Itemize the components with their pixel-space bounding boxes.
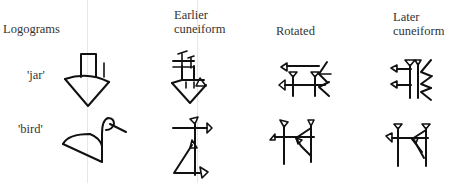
bird-later-cuneiform-icon [384,122,439,172]
header-earlier-line2: cuneiform [174,22,225,36]
header-earlier-line1: Earlier [174,8,225,22]
jar-later-cuneiform-icon [387,58,442,103]
header-later-cuneiform: Later cuneiform [393,10,444,38]
bird-logogram-icon [60,112,130,167]
jar-earlier-cuneiform-icon [168,48,218,108]
jar-logogram-icon [60,48,120,108]
header-rotated: Rotated [276,24,315,38]
row-label-bird: 'bird' [18,122,43,137]
jar-rotated-cuneiform-icon [277,60,337,100]
header-logograms: Logograms [3,22,60,36]
header-earlier-cuneiform: Earlier cuneiform [174,8,225,36]
row-label-jar: 'jar' [27,68,45,83]
header-later-line2: cuneiform [393,24,444,38]
bird-rotated-cuneiform-icon [268,118,323,168]
bird-earlier-cuneiform-icon [170,115,220,180]
header-later-line1: Later [393,10,444,24]
